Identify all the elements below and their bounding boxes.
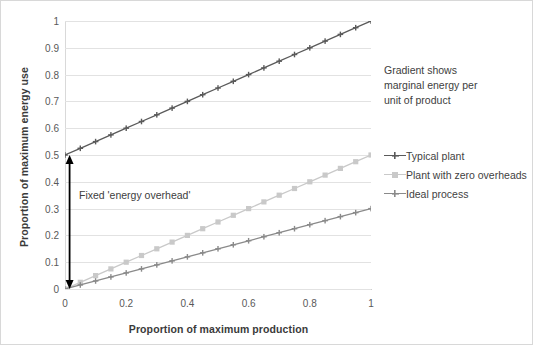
data-point-marker <box>169 105 175 111</box>
y-tick-label: 0.6 <box>19 123 59 134</box>
data-point-marker <box>292 226 298 232</box>
data-point-marker <box>353 159 358 164</box>
data-point-marker <box>231 242 237 248</box>
plot-area <box>65 21 371 289</box>
chart-figure: Proportion of maximum energy use 00.10.2… <box>0 0 533 345</box>
data-point-marker <box>170 240 175 245</box>
data-point-marker <box>276 230 282 236</box>
y-tick-label: 0.9 <box>19 42 59 53</box>
data-point-marker <box>124 260 129 265</box>
data-point-marker <box>93 273 98 278</box>
series-ideal-process <box>65 206 371 289</box>
annotation-fixed-energy-overhead: Fixed 'energy overhead' <box>79 189 190 201</box>
y-tick-label: 0.7 <box>19 96 59 107</box>
data-point-marker <box>215 219 220 224</box>
data-point-marker <box>277 193 282 198</box>
data-point-marker <box>368 206 371 212</box>
data-point-marker <box>215 85 221 91</box>
data-point-marker <box>200 250 206 256</box>
x-axis-tick-labels: 00.20.40.60.81 <box>65 298 372 314</box>
gradient-note-line-2: marginal energy per <box>384 78 524 93</box>
data-point-marker <box>246 238 252 244</box>
data-point-marker <box>368 152 371 157</box>
data-point-marker <box>307 222 313 228</box>
data-point-marker <box>108 266 113 271</box>
legend-item-label: Plant with zero overheads <box>406 169 527 181</box>
data-point-marker <box>307 179 312 184</box>
data-point-marker <box>123 270 129 276</box>
data-point-marker <box>169 258 175 264</box>
data-point-marker <box>139 253 144 258</box>
data-point-marker <box>322 38 328 44</box>
data-point-marker <box>323 173 328 178</box>
data-point-marker <box>108 132 114 138</box>
chart-series-svg <box>65 21 371 289</box>
x-axis-title: Proportion of maximum production <box>65 323 372 335</box>
data-point-marker <box>338 32 344 38</box>
chart-legend: Typical plantPlant with zero overheadsId… <box>384 146 533 203</box>
y-tick-label: 0 <box>19 284 59 295</box>
plus-marker-icon <box>392 152 399 159</box>
overhead-double-arrow <box>66 155 74 289</box>
data-point-marker <box>93 139 99 145</box>
data-point-marker <box>231 79 237 85</box>
y-tick-label: 0.3 <box>19 203 59 214</box>
y-tick-label: 0.1 <box>19 257 59 268</box>
data-point-marker <box>322 218 328 224</box>
gradient-note-line-3: unit of product <box>384 93 524 108</box>
legend-item-label: Typical plant <box>406 150 464 162</box>
gradient-note-line-1: Gradient shows <box>384 63 524 78</box>
data-point-marker <box>123 125 129 131</box>
y-tick-label: 0.2 <box>19 230 59 241</box>
data-point-marker <box>261 234 267 240</box>
x-tick-label: 0.8 <box>290 298 330 309</box>
y-axis-tick-labels: 00.10.20.30.40.50.60.70.80.91 <box>13 21 59 289</box>
y-tick-label: 0.8 <box>19 69 59 80</box>
data-point-marker <box>338 166 343 171</box>
data-point-marker <box>185 233 190 238</box>
data-point-marker <box>139 266 145 272</box>
data-point-marker <box>108 274 114 280</box>
x-tick-label: 0.4 <box>167 298 207 309</box>
legend-item[interactable]: Plant with zero overheads <box>384 165 533 184</box>
y-tick-label: 1 <box>19 16 59 27</box>
data-point-marker <box>353 210 359 216</box>
data-point-marker <box>292 52 298 58</box>
square-marker-icon <box>392 172 398 178</box>
series-typical-plant <box>65 21 371 158</box>
y-tick-label: 0.4 <box>19 176 59 187</box>
annotation-gradient-note: Gradient shows marginal energy per unit … <box>384 63 524 108</box>
data-point-marker <box>93 278 99 284</box>
data-point-marker <box>185 99 191 105</box>
data-point-marker <box>261 199 266 204</box>
data-point-marker <box>139 119 145 125</box>
data-point-marker <box>154 112 160 118</box>
legend-item[interactable]: Typical plant <box>384 146 533 165</box>
data-point-marker <box>276 58 282 64</box>
y-tick-label: 0.5 <box>19 150 59 161</box>
data-point-marker <box>246 72 252 78</box>
x-tick-label: 0.6 <box>229 298 269 309</box>
legend-marker-icon <box>384 169 406 181</box>
data-point-marker <box>246 206 251 211</box>
data-point-marker <box>154 262 160 268</box>
data-point-marker <box>338 214 344 220</box>
data-point-marker <box>231 213 236 218</box>
x-tick-label: 1 <box>351 298 391 309</box>
data-point-marker <box>215 246 221 252</box>
data-point-marker <box>200 92 206 98</box>
data-point-marker <box>307 45 313 51</box>
data-point-marker <box>154 246 159 251</box>
x-tick-label: 0 <box>45 298 85 309</box>
data-point-marker <box>292 186 297 191</box>
data-point-marker <box>261 65 267 71</box>
legend-item-label: Ideal process <box>406 188 468 200</box>
legend-marker-icon <box>384 150 406 162</box>
data-point-marker <box>185 254 191 260</box>
legend-item[interactable]: Ideal process <box>384 184 533 203</box>
data-point-marker <box>65 152 68 158</box>
plus-marker-icon <box>392 190 399 197</box>
legend-marker-icon <box>384 188 406 200</box>
data-point-marker <box>200 226 205 231</box>
x-tick-label: 0.2 <box>106 298 146 309</box>
